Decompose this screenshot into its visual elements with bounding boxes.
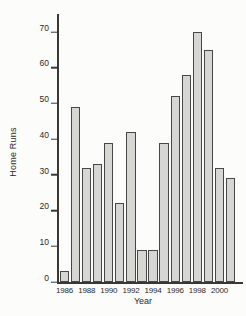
bar-1989 (93, 164, 102, 282)
x-tick-label-2000: 2000 (211, 287, 228, 295)
y-tick-30 (51, 174, 57, 175)
x-axis-title: Year (57, 296, 229, 306)
plot-area: 0102030405060701986198819901992199419961… (57, 14, 243, 284)
bar-1992 (126, 132, 135, 282)
bar-1991 (115, 203, 124, 282)
bar-1997 (182, 75, 191, 282)
x-tick-label-1988: 1988 (78, 287, 95, 295)
screenshot-root: Home Runs 010203040506070198619881990199… (0, 0, 246, 316)
y-tick-label-40: 40 (40, 131, 49, 140)
bar-1999 (204, 50, 213, 282)
bar-1995 (159, 143, 168, 282)
bar-1990 (104, 143, 113, 282)
y-tick-label-50: 50 (40, 95, 49, 104)
y-tick-label-10: 10 (40, 238, 49, 247)
bar-2000 (215, 168, 224, 282)
y-axis-title: Home Runs (8, 127, 18, 176)
y-tick-70 (51, 31, 57, 32)
bar-1993 (137, 250, 146, 282)
home-runs-bar-chart: Home Runs 010203040506070198619881990199… (0, 0, 246, 316)
y-tick-0 (51, 281, 57, 282)
x-tick-label-1998: 1998 (189, 287, 206, 295)
y-tick-label-20: 20 (40, 202, 49, 211)
y-tick-40 (51, 138, 57, 139)
x-tick-label-1986: 1986 (56, 287, 73, 295)
y-tick-label-70: 70 (40, 23, 49, 32)
bar-1986 (60, 271, 69, 282)
bar-1994 (148, 250, 157, 282)
y-tick-60 (51, 67, 57, 68)
y-tick-20 (51, 210, 57, 211)
bar-1996 (171, 96, 180, 282)
x-tick-label-1994: 1994 (145, 287, 162, 295)
bar-1987 (71, 107, 80, 282)
x-tick-label-1996: 1996 (167, 287, 184, 295)
x-tick-label-1990: 1990 (100, 287, 117, 295)
bar-1988 (82, 168, 91, 282)
bar-2001 (226, 178, 235, 282)
y-tick-label-60: 60 (40, 59, 49, 68)
y-tick-label-0: 0 (44, 273, 49, 282)
y-tick-50 (51, 103, 57, 104)
bar-1998 (193, 32, 202, 282)
x-tick-label-1992: 1992 (122, 287, 139, 295)
y-tick-label-30: 30 (40, 166, 49, 175)
y-tick-10 (51, 246, 57, 247)
